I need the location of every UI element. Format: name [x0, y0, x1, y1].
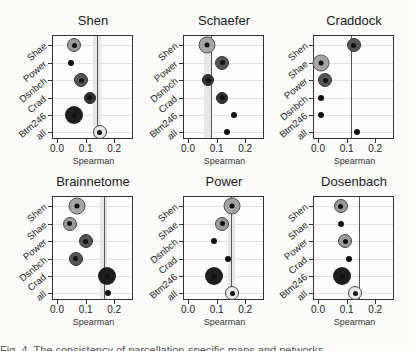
y-tick-label: all: [165, 288, 179, 303]
x-tick-label: 0.2: [102, 304, 126, 315]
gridline: [184, 115, 263, 116]
data-point: [69, 252, 83, 266]
x-tick-label: 0.2: [102, 143, 126, 154]
y-tick: [48, 80, 52, 81]
y-tick: [309, 45, 313, 46]
y-tick: [48, 206, 52, 207]
x-tick-label: 0.1: [335, 143, 359, 154]
y-tick: [309, 206, 313, 207]
gridline: [53, 45, 132, 46]
y-tick: [309, 132, 313, 133]
x-tick-label: 0.1: [205, 304, 229, 315]
reference-line: [359, 197, 360, 299]
data-point: [65, 106, 83, 124]
y-tick-label: Shae: [155, 219, 179, 242]
x-tick-label: 0.0: [176, 143, 200, 154]
gridline: [314, 224, 393, 225]
data-point: [347, 38, 361, 52]
y-tick: [179, 259, 183, 260]
y-tick-label: Shen: [285, 40, 309, 63]
y-tick-label: Shae: [24, 40, 48, 63]
data-point: [318, 112, 324, 118]
data-point: [68, 60, 74, 66]
panel-brainnetome: BrainnetomeShenShaePowerDsnbchCradall0.0…: [0, 161, 135, 326]
gridline: [53, 293, 132, 294]
data-point: [211, 238, 217, 244]
data-point: [334, 199, 348, 213]
y-tick: [309, 293, 313, 294]
y-tick-label: Shae: [285, 58, 309, 81]
plot-area: ShenPowerDsnbchCradBtm246all0.00.10.2Spe…: [183, 35, 264, 139]
x-tick-label: 0.1: [74, 304, 98, 315]
y-tick: [309, 276, 313, 277]
x-axis-title: Spearman: [184, 317, 265, 327]
gridline: [184, 241, 263, 242]
x-tick-label: 0.0: [306, 304, 330, 315]
panel-power: PowerShenShaeDsnbchCradBtm246all0.00.10.…: [131, 161, 266, 326]
y-tick: [48, 224, 52, 225]
data-point: [84, 92, 96, 104]
gridline: [314, 259, 393, 260]
gridline: [184, 259, 263, 260]
y-tick: [179, 45, 183, 46]
data-point: [93, 125, 107, 139]
gridline: [314, 241, 393, 242]
data-point: [67, 38, 81, 52]
panel-title: Craddock: [313, 13, 395, 28]
data-point: [346, 256, 352, 262]
gridline: [53, 63, 132, 64]
data-point: [202, 74, 214, 86]
figure-caption: Fig. 4. The consistency of parcellation-…: [0, 344, 415, 351]
y-tick-label: Shen: [155, 40, 179, 63]
data-point: [105, 290, 111, 296]
data-point: [348, 286, 362, 300]
x-tick-label: 0.0: [176, 304, 200, 315]
data-point: [79, 234, 93, 248]
y-tick: [309, 98, 313, 99]
y-tick: [179, 98, 183, 99]
y-tick: [179, 293, 183, 294]
y-tick: [309, 115, 313, 116]
x-tick-label: 0.1: [74, 143, 98, 154]
y-tick: [179, 63, 183, 64]
y-tick-label: Shen: [285, 201, 309, 224]
data-point: [318, 95, 324, 101]
data-point: [205, 267, 223, 285]
y-tick-label: Shen: [155, 201, 179, 224]
x-tick-label: 0.2: [233, 143, 257, 154]
panel-title: Dosenbach: [313, 174, 395, 189]
gridline: [184, 293, 263, 294]
data-point: [215, 56, 229, 70]
x-tick-label: 0.1: [335, 304, 359, 315]
y-tick: [309, 80, 313, 81]
x-axis-title: Spearman: [314, 317, 395, 327]
y-tick: [309, 241, 313, 242]
gridline: [314, 276, 393, 277]
panel-schaefer: SchaeferShenPowerDsnbchCradBtm246all0.00…: [131, 0, 266, 165]
panel-craddock: CraddockShenShaePowerDsnbchBtm246all0.00…: [261, 0, 396, 165]
data-point: [198, 37, 215, 54]
data-point: [318, 73, 332, 87]
data-point: [74, 73, 88, 87]
x-axis-title: Spearman: [53, 317, 134, 327]
y-tick-label: Shae: [24, 219, 48, 242]
y-tick: [48, 98, 52, 99]
plot-area: ShenShaeDsnbchCradBtm246all0.00.10.2Spea…: [183, 196, 264, 300]
data-point: [333, 267, 351, 285]
x-tick-label: 0.2: [233, 304, 257, 315]
panel-title: Brainnetome: [52, 174, 134, 189]
gridline: [314, 115, 393, 116]
plot-area: ShenShaePowerDsnbchBtm246all0.00.10.2Spe…: [313, 35, 394, 139]
plot-area: ShenShaePowerCradBtm246all0.00.10.2Spear…: [313, 196, 394, 300]
panel-shen: ShenShaePowerDsnbchCradBtm246all0.00.10.…: [0, 0, 135, 165]
panel-title: Power: [183, 174, 265, 189]
panel-title: Shen: [52, 13, 134, 28]
y-tick: [48, 132, 52, 133]
y-tick-label: all: [34, 288, 48, 303]
gridline: [184, 45, 263, 46]
y-tick-label: Shae: [285, 219, 309, 242]
y-tick: [179, 132, 183, 133]
y-tick: [48, 45, 52, 46]
y-tick-label: all: [165, 127, 179, 142]
y-tick: [48, 241, 52, 242]
